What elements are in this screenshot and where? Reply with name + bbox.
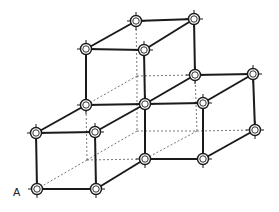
lattice-edge	[203, 130, 255, 159]
hidden-edge	[86, 76, 137, 105]
lattice-node	[194, 94, 212, 112]
lattice-node	[186, 66, 204, 84]
lattice-node	[194, 150, 212, 168]
hidden-edge	[145, 131, 197, 159]
lattice-node	[87, 180, 105, 198]
lattice-diagram	[0, 0, 279, 212]
lattice-node	[185, 10, 203, 28]
corner-label-a: A	[13, 186, 20, 198]
lattice-node	[136, 150, 154, 168]
lattice-node	[27, 124, 45, 142]
lattice-node	[246, 121, 264, 139]
lattice-edge	[86, 21, 136, 49]
lattice-edge	[145, 75, 195, 104]
lattice-edge	[144, 19, 194, 50]
lattice-node	[136, 95, 154, 113]
lattice-edge	[36, 105, 86, 133]
lattice-nodes	[27, 10, 264, 198]
lattice-edge	[95, 104, 145, 132]
hidden-edge	[37, 160, 87, 189]
lattice-edge	[203, 74, 253, 103]
lattice-node	[77, 96, 95, 114]
lattice-node	[77, 40, 95, 58]
lattice-node	[127, 12, 145, 30]
lattice-node	[135, 41, 153, 59]
lattice-node	[28, 180, 46, 198]
lattice-node	[244, 65, 262, 83]
lattice-edge	[96, 159, 145, 189]
lattice-node	[86, 123, 104, 141]
